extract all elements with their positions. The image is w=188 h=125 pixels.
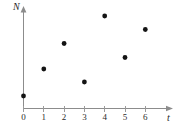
data-point-t5 [123,55,128,60]
x-axis-label: t [167,112,170,123]
x-tick-label-0: 0 [18,112,30,122]
plot-canvas [0,0,188,125]
data-point-t2 [62,41,67,46]
data-point-t6 [143,27,148,32]
y-axis-arrowhead [21,6,27,13]
x-tick-label-2: 2 [58,112,70,122]
data-point-t3 [82,80,87,85]
data-point-t0 [21,94,26,99]
x-axis-arrowhead [166,106,173,112]
x-tick-label-4: 4 [99,112,111,122]
data-point-t4 [102,14,107,19]
data-point-series [21,14,148,99]
data-point-t1 [41,67,46,72]
x-tick-label-6: 6 [139,112,151,122]
scatter-chart-figure: N t 0 1 2 3 4 5 6 [0,0,188,125]
x-tick-label-3: 3 [78,112,90,122]
y-axis-label: N [13,1,20,12]
x-tick-label-5: 5 [119,112,131,122]
x-tick-label-1: 1 [38,112,50,122]
